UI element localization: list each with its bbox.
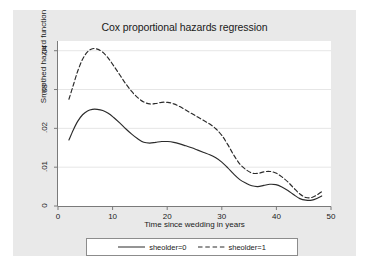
series-line-0: [69, 109, 322, 200]
y-tick-label: .03: [40, 79, 49, 99]
legend-entry-sheolder-1: sheolder=1: [198, 243, 266, 252]
chart-screenshot: Cox proportional hazards regression Smoo…: [0, 0, 370, 269]
legend-label-sheolder-1: sheolder=1: [229, 243, 266, 252]
legend-label-sheolder-0: sheolder=0: [149, 243, 186, 252]
legend-key-dashed-line-icon: [198, 243, 225, 251]
y-axis-title: Smoothed hazard function: [39, 0, 48, 127]
chart-legend: sheolder=0 sheolder=1: [86, 238, 298, 256]
series-line-1: [69, 49, 322, 198]
legend-entry-sheolder-0: sheolder=0: [118, 243, 186, 252]
legend-key-solid-line-icon: [118, 243, 145, 251]
hazard-curves-svg: [58, 41, 331, 206]
chart-title: Cox proportional hazards regression: [13, 21, 356, 33]
y-tick-label: .04: [40, 40, 49, 60]
y-tick-label: .01: [40, 157, 49, 177]
y-tick-label: .02: [40, 118, 49, 138]
plot-area: [58, 41, 331, 206]
x-axis-title: Time since wedding in years: [58, 220, 331, 229]
graph-canvas: Cox proportional hazards regression Smoo…: [13, 10, 356, 256]
